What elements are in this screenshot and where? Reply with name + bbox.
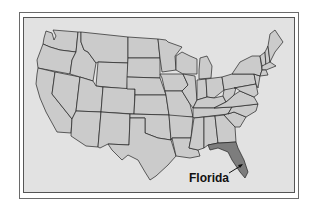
us-map [0,0,309,212]
state-indiana [197,79,207,100]
florida-label: Florida [189,171,229,185]
state-maine [268,30,283,62]
state-new-york [232,56,262,76]
state-wyoming [96,62,128,89]
state-new-mexico [98,112,130,148]
state-michigan [199,56,212,79]
state-south-dakota [127,58,160,78]
state-colorado [101,87,135,114]
state-wisconsin [176,52,197,74]
state-arkansas [169,115,193,140]
state-ohio [206,77,224,98]
state-kansas [134,95,169,115]
state-north-dakota [128,37,160,58]
state-arizona [71,111,101,147]
